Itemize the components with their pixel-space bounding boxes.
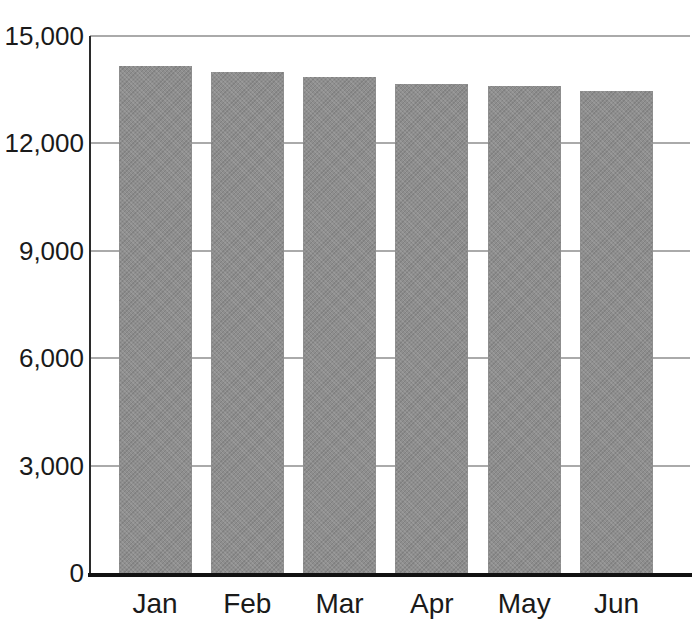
x-tick-label-feb: Feb xyxy=(201,589,293,619)
bar-may xyxy=(488,86,561,573)
y-axis-line xyxy=(89,36,91,573)
y-tick-label-6000: 6,000 xyxy=(0,344,84,372)
bar-jun xyxy=(580,91,653,573)
x-tick-label-mar: Mar xyxy=(294,589,386,619)
bar-chart: 15,000 12,000 9,000 6,000 3,000 0 Jan Fe… xyxy=(0,0,699,625)
x-tick-label-jun: Jun xyxy=(571,589,663,619)
bar-feb xyxy=(211,72,284,573)
bar-jan xyxy=(119,66,192,573)
y-tick-label-9000: 9,000 xyxy=(0,237,84,265)
bar-apr xyxy=(395,84,468,573)
bar-mar xyxy=(303,77,376,573)
x-tick-label-jan: Jan xyxy=(109,589,201,619)
plot-area xyxy=(90,36,690,573)
x-tick-label-apr: Apr xyxy=(386,589,478,619)
y-tick-label-12000: 12,000 xyxy=(0,129,84,157)
y-tick-label-15000: 15,000 xyxy=(0,22,84,50)
x-tick-label-may: May xyxy=(478,589,570,619)
y-tick-label-0: 0 xyxy=(0,559,84,587)
y-tick-label-3000: 3,000 xyxy=(0,452,84,480)
x-axis-line xyxy=(88,573,692,577)
